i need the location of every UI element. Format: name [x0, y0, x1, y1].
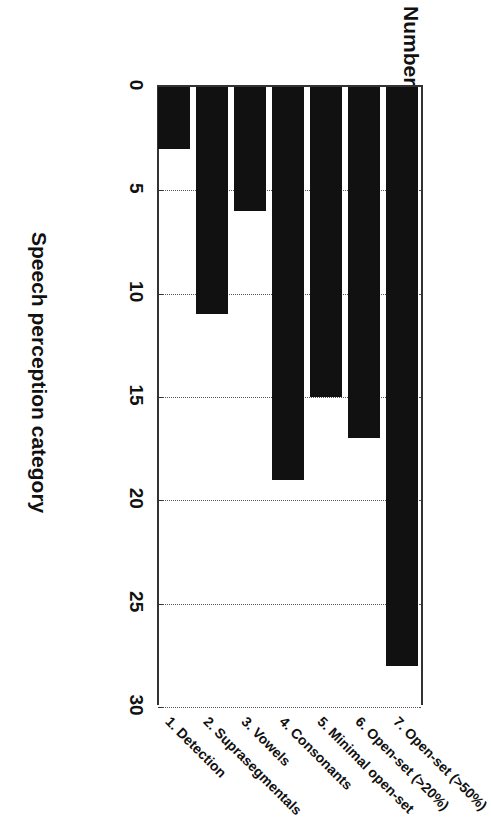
tick-mark [158, 294, 163, 295]
gridline [159, 707, 421, 708]
bar[interactable] [310, 87, 342, 397]
tick-mark [158, 397, 163, 398]
bar[interactable] [272, 87, 304, 480]
plot-area [157, 85, 423, 705]
bar[interactable] [158, 87, 190, 149]
gridline [159, 500, 421, 501]
tick-mark [158, 707, 163, 708]
value-tick-label: 5 [125, 183, 147, 194]
tick-mark [158, 604, 163, 605]
bar[interactable] [386, 87, 418, 666]
value-tick-label: 10 [125, 281, 147, 302]
value-tick-label: 0 [125, 80, 147, 91]
value-tick-label: 15 [125, 384, 147, 405]
bar[interactable] [196, 87, 228, 314]
value-tick-label: 30 [125, 694, 147, 715]
category-axis-title: Speech perception category [27, 232, 51, 513]
value-tick-label: 20 [125, 488, 147, 509]
tick-mark [158, 500, 163, 501]
value-tick-label: 25 [125, 591, 147, 612]
bar[interactable] [348, 87, 380, 438]
tick-mark [158, 190, 163, 191]
gridline [159, 604, 421, 605]
bar[interactable] [234, 87, 266, 211]
